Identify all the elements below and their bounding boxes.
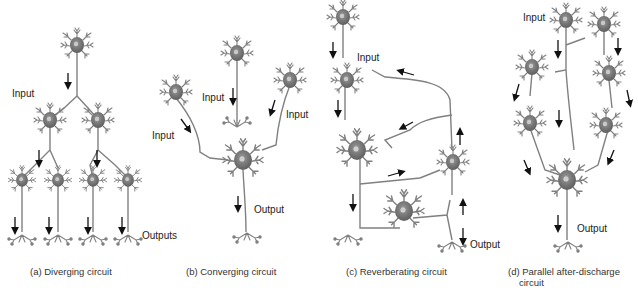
panel-b-caption: (b) Converging circuit xyxy=(186,266,276,277)
panel-c-input-label: Input xyxy=(357,52,379,63)
panel-a-input-label: Input xyxy=(12,88,34,99)
panel-d-output-label: Output xyxy=(577,223,607,234)
panel-b-input-middle-label: Input xyxy=(202,92,224,103)
panel-a-diverging-circuit xyxy=(8,28,142,245)
panel-b-output-label: Output xyxy=(254,204,284,215)
panel-c-output-label: Output xyxy=(470,239,500,250)
panel-d-parallel-after-discharge-circuit xyxy=(514,3,630,252)
panel-b-input-left-label: Input xyxy=(152,130,174,141)
panel-d-caption-line1: (d) Parallel after-discharge xyxy=(508,266,620,277)
panel-a-caption: (a) Diverging circuit xyxy=(30,266,112,277)
panel-b-input-right-label: Input xyxy=(286,109,308,120)
panel-d-input-label: Input xyxy=(523,12,545,23)
neural-circuits-diagram xyxy=(0,0,638,294)
panel-b-converging-circuit xyxy=(160,36,306,243)
panel-d-caption-line2: circuit xyxy=(519,277,544,288)
panel-a-outputs-label: Outputs xyxy=(142,230,177,241)
panel-c-caption: (c) Reverberating circuit xyxy=(346,266,447,277)
panel-c-reverberating-circuit xyxy=(327,0,469,252)
